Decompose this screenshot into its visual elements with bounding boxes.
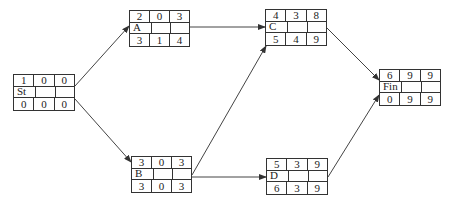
node-bottom-cell-1: 3: [287, 182, 307, 194]
node-d: 5 3 9 D 6 3 9: [266, 158, 328, 195]
node-top-cell-2: 3: [172, 157, 191, 168]
node-blank-cell: [402, 82, 421, 93]
node-top-cell-0: 4: [266, 10, 286, 21]
node-name-row: B: [132, 169, 191, 181]
node-blank-cell: [309, 171, 327, 182]
node-c: 4 3 8 C 5 4 9: [265, 9, 327, 46]
node-top-cell-0: 1: [14, 75, 34, 86]
node-bottom-row: 0 0 0: [14, 98, 74, 110]
node-blank-cell: [422, 82, 440, 93]
node-blank-cell: [171, 23, 189, 34]
node-top-cell-2: 3: [170, 11, 189, 22]
node-bottom-cell-1: 9: [400, 93, 420, 105]
edge-st-b: [75, 99, 131, 162]
node-top-cell-1: 0: [152, 157, 172, 168]
node-top-cell-1: 9: [400, 70, 420, 81]
node-bottom-cell-2: 9: [421, 93, 440, 105]
node-bottom-cell-2: 0: [55, 98, 74, 110]
node-blank-cell: [152, 23, 171, 34]
node-blank-cell: [173, 169, 191, 180]
node-b: 3 0 3 B 3 0 3: [131, 156, 192, 193]
node-name: B: [132, 169, 154, 180]
node-top-cell-2: 0: [55, 75, 74, 86]
node-bottom-cell-2: 9: [308, 182, 327, 194]
edge-st-a: [75, 26, 129, 86]
node-top-cell-1: 0: [150, 11, 170, 22]
node-name: D: [267, 171, 289, 182]
node-top-cell-1: 3: [286, 10, 306, 21]
node-bottom-cell-1: 1: [150, 34, 170, 46]
node-bottom-cell-1: 0: [152, 180, 172, 192]
node-bottom-cell-0: 3: [132, 180, 152, 192]
node-bottom-row: 3 0 3: [132, 180, 191, 192]
node-bottom-cell-0: 0: [14, 98, 34, 110]
node-name: A: [130, 23, 152, 34]
node-bottom-cell-2: 4: [170, 34, 189, 46]
node-bottom-row: 5 4 9: [266, 33, 326, 45]
edge-c-fin: [327, 28, 379, 80]
node-name-row: C: [266, 22, 326, 34]
node-bottom-cell-2: 9: [307, 33, 326, 45]
node-bottom-row: 3 1 4: [130, 34, 189, 46]
node-blank-cell: [154, 169, 173, 180]
edge-d-fin: [328, 95, 379, 177]
node-top-cell-0: 6: [380, 70, 400, 81]
node-name: Fin: [380, 82, 402, 93]
node-top-cell-2: 9: [421, 70, 440, 81]
node-top-cell-2: 8: [307, 10, 326, 21]
node-a: 2 0 3 A 3 1 4: [129, 10, 190, 47]
node-top-cell-0: 2: [130, 11, 150, 22]
node-blank-cell: [56, 87, 74, 98]
node-bottom-cell-0: 3: [130, 34, 150, 46]
node-name-row: D: [267, 171, 327, 183]
node-name-row: Fin: [380, 82, 440, 94]
node-name-row: St: [14, 87, 74, 99]
node-bottom-row: 6 3 9: [267, 182, 327, 194]
node-st: 1 0 0 St 0 0 0: [13, 74, 75, 111]
node-bottom-cell-0: 0: [380, 93, 400, 105]
node-top-cell-1: 3: [287, 159, 307, 170]
node-bottom-cell-0: 6: [267, 182, 287, 194]
node-fin: 6 9 9 Fin 0 9 9: [379, 69, 441, 106]
node-name: C: [266, 22, 288, 33]
node-top-cell-0: 3: [132, 157, 152, 168]
node-bottom-cell-1: 4: [286, 33, 306, 45]
node-bottom-cell-2: 3: [172, 180, 191, 192]
node-bottom-cell-1: 0: [34, 98, 54, 110]
node-name-row: A: [130, 23, 189, 35]
node-blank-cell: [308, 22, 326, 33]
node-name: St: [14, 87, 36, 98]
node-top-cell-2: 9: [308, 159, 327, 170]
node-blank-cell: [36, 87, 55, 98]
node-bottom-row: 0 9 9: [380, 93, 440, 105]
node-bottom-cell-0: 5: [266, 33, 286, 45]
node-top-cell-0: 5: [267, 159, 287, 170]
node-blank-cell: [288, 22, 307, 33]
node-top-cell-1: 0: [34, 75, 54, 86]
edge-b-c: [192, 46, 266, 175]
node-blank-cell: [289, 171, 308, 182]
